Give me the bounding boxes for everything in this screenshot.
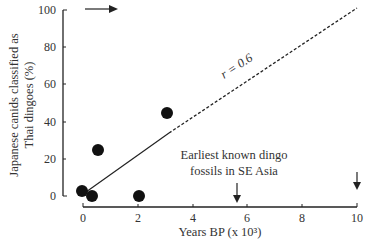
svg-text:0: 0	[50, 189, 56, 203]
svg-text:8: 8	[299, 211, 305, 225]
svg-text:0: 0	[80, 211, 86, 225]
y-tick-labels: 100 80 60 40 20 0	[38, 3, 56, 203]
fossil-annotation-line1: Earliest known dingo	[181, 148, 288, 162]
svg-text:60: 60	[44, 77, 56, 91]
svg-text:20: 20	[44, 152, 56, 166]
x-axis-title: Years BP (x 10³)	[179, 225, 262, 239]
svg-text:100: 100	[38, 3, 56, 17]
data-point	[86, 190, 98, 202]
data-point	[92, 144, 104, 156]
svg-text:10: 10	[351, 211, 363, 225]
arrow-down-icon	[353, 172, 361, 190]
x-tick-labels: 0 2 4 6 8 10	[80, 211, 363, 225]
svg-text:4: 4	[190, 211, 196, 225]
fossil-annotation-line2: fossils in SE Asia	[190, 164, 278, 178]
svg-text:2: 2	[135, 211, 141, 225]
arrow-right-icon	[85, 5, 118, 13]
svg-text:Japanese canids classified as: Japanese canids classified as	[7, 33, 21, 176]
svg-text:40: 40	[44, 115, 56, 129]
arrow-down-icon	[233, 183, 241, 203]
data-point	[161, 107, 173, 119]
data-points	[76, 107, 173, 202]
data-point	[133, 190, 145, 202]
svg-text:Thai dingoes (%): Thai dingoes (%)	[22, 62, 36, 149]
svg-text:80: 80	[44, 40, 56, 54]
scatter-chart: 100 80 60 40 20 0 Japanese canids classi…	[0, 0, 367, 239]
regression-dashed-line	[169, 8, 357, 133]
y-axis-title: Japanese canids classified as Thai dingo…	[7, 33, 36, 176]
r-value-label: r = 0.6	[218, 50, 256, 81]
regression-solid-line	[86, 133, 169, 192]
svg-text:6: 6	[244, 211, 250, 225]
